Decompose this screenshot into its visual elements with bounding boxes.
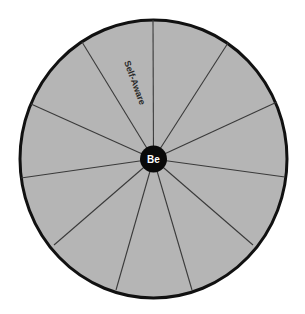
- hub-label: Be: [147, 154, 160, 165]
- wheel-diagram: Self-Aware Be: [0, 0, 305, 314]
- spoke: [153, 20, 154, 159]
